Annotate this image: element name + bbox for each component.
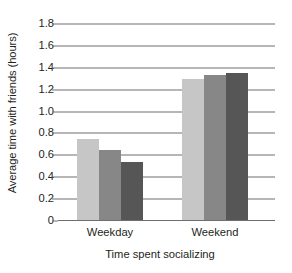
y-axis-tickmark: [52, 45, 58, 46]
x-axis-title: Time spent socializing: [0, 248, 292, 260]
y-axis-tickmark: [52, 24, 58, 25]
bar: [226, 73, 248, 221]
y-axis-tick-label: 0.6: [28, 150, 54, 161]
bar: [121, 162, 143, 221]
bar: [99, 150, 121, 221]
y-axis-tick-label: 1.6: [28, 40, 54, 51]
y-axis-tick-label: 1.8: [28, 18, 54, 29]
y-axis-tick-label: 1.4: [28, 62, 54, 73]
bar: [182, 79, 204, 221]
y-axis-title-text: Average time with friends (hours): [6, 32, 18, 193]
gridline: [58, 24, 275, 25]
y-axis-tickmark: [52, 133, 58, 134]
y-axis-tick-label: 0.2: [28, 194, 54, 205]
y-axis-tick-label: 0.4: [28, 172, 54, 183]
y-axis-tickmark: [52, 67, 58, 68]
x-axis-tick-label: Weekend: [191, 226, 238, 238]
gridline: [58, 67, 275, 68]
y-axis-tick-label: 0: [28, 215, 54, 226]
y-axis-title: Average time with friends (hours): [0, 0, 24, 225]
y-axis-tick-labels: 00.20.40.60.81.01.21.41.61.8: [26, 0, 54, 273]
y-axis-tickmark: [52, 89, 58, 90]
y-axis-tick-label: 1.0: [28, 106, 54, 117]
y-axis-tickmark: [52, 199, 58, 200]
y-axis-tick-label: 1.2: [28, 84, 54, 95]
x-axis-title-text: Time spent socializing: [105, 248, 215, 260]
x-axis-line: [58, 220, 275, 221]
y-axis-tickmark: [52, 155, 58, 156]
bar-chart: Average time with friends (hours) 00.20.…: [0, 0, 292, 273]
bar: [77, 139, 99, 221]
y-axis-tick-label: 0.8: [28, 128, 54, 139]
bar: [204, 75, 226, 221]
gridline: [58, 45, 275, 46]
y-axis-tickmark: [52, 177, 58, 178]
plot-area: [58, 24, 275, 221]
x-axis-tick-label: Weekday: [87, 226, 133, 238]
y-axis-tickmark: [52, 111, 58, 112]
